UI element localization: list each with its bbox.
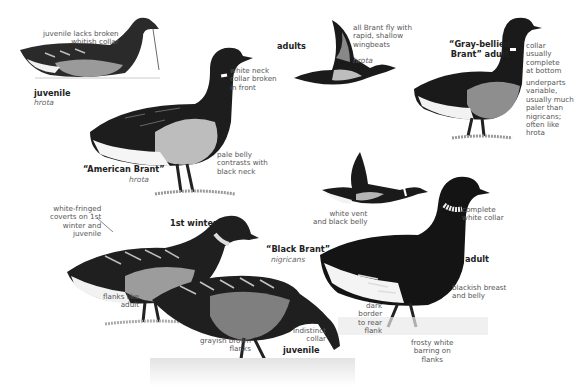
gray-bellied-collar-note: collar usually complete at bottom bbox=[526, 42, 562, 76]
coverts-pointer-line bbox=[97, 218, 117, 238]
white-fringed-coverts-note: white-fringed coverts on 1st winter and … bbox=[50, 205, 101, 239]
american-brant-collar-note: white neck collar broken in front bbox=[230, 67, 277, 92]
dark-flank-border-note: dark border to rear flank bbox=[358, 302, 382, 336]
juvenile-collar-note: juvenile lacks broken whitish collar bbox=[43, 30, 119, 47]
grayish-brown-flanks-note: grayish brown flanks bbox=[200, 337, 251, 354]
gray-bellied-brant-illustration bbox=[412, 14, 542, 139]
frosty-barring-note: frosty white barring on flanks bbox=[411, 339, 454, 364]
black-brant-juvenile-title: juvenile bbox=[283, 346, 320, 356]
american-brant-belly-note: pale belly contrasts with black neck bbox=[217, 151, 268, 176]
black-brant-title: “Black Brant” bbox=[266, 245, 330, 255]
flying-hrota-subspecies: hrota bbox=[353, 56, 373, 65]
white-vent-note: white vent and black belly bbox=[313, 210, 367, 227]
blackish-breast-note: blackish breast and belly bbox=[452, 284, 506, 301]
flanks-like-adult-note: flanks like adult bbox=[103, 293, 139, 310]
black-brant-subspecies: nigricans bbox=[271, 255, 305, 264]
american-brant-title: “American Brant” bbox=[83, 165, 165, 175]
flight-wingbeats-note: all Brant fly with rapid, shallow wingbe… bbox=[353, 24, 412, 49]
adults-heading: adults bbox=[277, 42, 306, 52]
gray-bellied-underparts-note: underparts variable, usually much paler … bbox=[526, 79, 574, 138]
juvenile-subspecies: hrota bbox=[34, 98, 54, 107]
indistinct-collar-note: indistinct collar bbox=[293, 327, 326, 344]
gray-bellied-title: “Gray-bellied Brant” adult bbox=[449, 40, 510, 59]
american-brant-subspecies: hrota bbox=[129, 175, 149, 184]
black-brant-adult-title: adult bbox=[465, 255, 489, 265]
first-winter-title: 1st winter bbox=[170, 219, 217, 229]
complete-collar-note: complete white collar bbox=[462, 206, 504, 223]
